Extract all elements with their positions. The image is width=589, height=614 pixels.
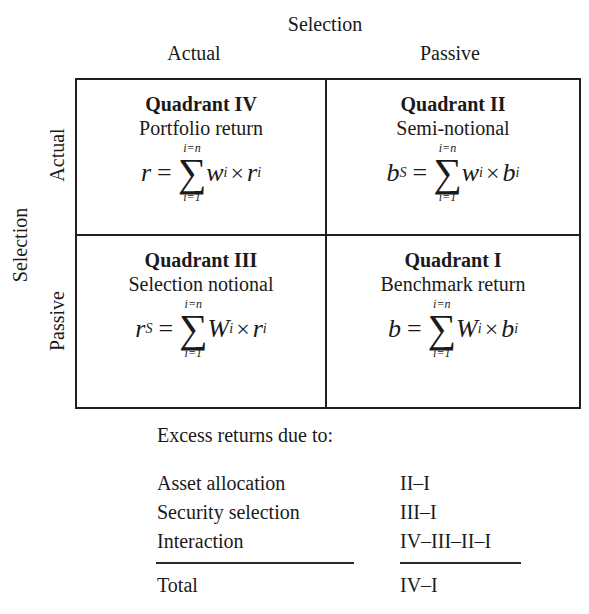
subscript: i xyxy=(478,321,482,337)
sigma-icon: ∑ xyxy=(433,155,462,191)
total-divider-left xyxy=(156,562,354,564)
weight-symbol: w xyxy=(206,158,223,188)
subscript: i xyxy=(224,165,228,181)
equals-sign: = xyxy=(157,158,172,188)
sigma-icon: ∑ xyxy=(178,155,207,191)
quadrant-title: Quadrant II xyxy=(327,92,579,116)
equals-sign: = xyxy=(158,314,173,344)
sum-lower-limit: i=1 xyxy=(183,191,200,204)
times-sign: × xyxy=(486,160,500,187)
column-axis-title: Selection xyxy=(0,13,589,36)
subscript: i xyxy=(479,165,483,181)
weight-symbol: W xyxy=(456,314,478,344)
sum-lower-limit: i=1 xyxy=(439,191,456,204)
summation: i=n ∑ i=1 xyxy=(428,298,457,360)
subscript: S xyxy=(145,321,152,337)
row-axis-title: Selection xyxy=(9,208,32,282)
quadrant-title: Quadrant IV xyxy=(77,92,325,116)
times-sign: × xyxy=(236,316,250,343)
quadrant-i: Quadrant I Benchmark return b = i=n ∑ i=… xyxy=(327,236,579,407)
subscript: S xyxy=(400,165,407,181)
interaction-value: IV–III–II–I xyxy=(400,530,491,553)
formula: rS = i=n ∑ i=1 Wi × ri xyxy=(135,298,266,360)
quadrant-iii: Quadrant III Selection notional rS = i=n… xyxy=(77,236,327,407)
equals-sign: = xyxy=(407,314,422,344)
total-label: Total xyxy=(157,574,198,597)
formula: b = i=n ∑ i=1 Wi × bi xyxy=(388,298,518,360)
formula: r = i=n ∑ i=1 wi × ri xyxy=(141,142,261,204)
excess-returns-title: Excess returns due to: xyxy=(157,424,333,447)
quadrant-matrix: Quadrant IV Portfolio return r = i=n ∑ i… xyxy=(75,78,581,409)
equals-sign: = xyxy=(413,158,428,188)
quadrant-subtitle: Portfolio return xyxy=(77,116,325,140)
sum-lower-limit: i=1 xyxy=(185,347,202,360)
quadrant-title: Quadrant I xyxy=(327,248,579,272)
quadrant-ii: Quadrant II Semi-notional bS = i=n ∑ i=1… xyxy=(327,80,579,236)
total-value: IV–I xyxy=(400,574,438,597)
formula-lhs: r xyxy=(141,158,151,188)
row-header-passive: Passive xyxy=(46,291,69,351)
subscript: i xyxy=(516,165,520,181)
subscript: i xyxy=(263,321,267,337)
formula-lhs: r xyxy=(135,314,145,344)
interaction-label: Interaction xyxy=(157,530,244,553)
formula: bS = i=n ∑ i=1 wi × bi xyxy=(387,142,520,204)
column-header-passive: Passive xyxy=(350,42,550,65)
sum-lower-limit: i=1 xyxy=(433,347,450,360)
summation: i=n ∑ i=1 xyxy=(433,142,462,204)
quadrant-iv: Quadrant IV Portfolio return r = i=n ∑ i… xyxy=(77,80,327,236)
times-sign: × xyxy=(230,160,244,187)
subscript: i xyxy=(257,165,261,181)
return-symbol: r xyxy=(253,314,263,344)
column-header-actual: Actual xyxy=(94,42,294,65)
quadrant-subtitle: Benchmark return xyxy=(327,272,579,296)
total-divider-right xyxy=(400,562,521,564)
quadrant-title: Quadrant III xyxy=(77,248,325,272)
sigma-icon: ∑ xyxy=(428,311,457,347)
times-sign: × xyxy=(485,316,499,343)
quadrant-subtitle: Selection notional xyxy=(77,272,325,296)
weight-symbol: w xyxy=(462,158,479,188)
row-header-actual: Actual xyxy=(46,128,69,181)
return-symbol: b xyxy=(503,158,516,188)
summation: i=n ∑ i=1 xyxy=(179,298,208,360)
formula-lhs: b xyxy=(388,314,401,344)
asset-allocation-value: II–I xyxy=(400,472,430,495)
formula-lhs: b xyxy=(387,158,400,188)
return-symbol: b xyxy=(501,314,514,344)
summation: i=n ∑ i=1 xyxy=(178,142,207,204)
subscript: i xyxy=(229,321,233,337)
security-selection-value: III–I xyxy=(400,501,437,524)
subscript: i xyxy=(514,321,518,337)
quadrant-subtitle: Semi-notional xyxy=(327,116,579,140)
sigma-icon: ∑ xyxy=(179,311,208,347)
return-symbol: r xyxy=(247,158,257,188)
weight-symbol: W xyxy=(208,314,230,344)
security-selection-label: Security selection xyxy=(157,501,300,524)
asset-allocation-label: Asset allocation xyxy=(157,472,285,495)
